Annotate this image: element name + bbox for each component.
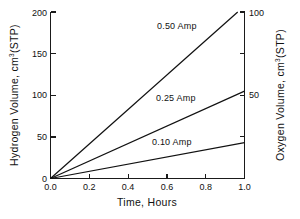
bottom-axis-tick-labels: 0.0 0.2 0.4 0.6 0.8 1.0 [44, 182, 251, 192]
hydrogen-oxygen-volume-line-chart: 0 50 100 150 200 50 100 0.0 [0, 0, 300, 219]
bottom-axis-ticks [51, 174, 245, 179]
left-tick-label-200: 200 [32, 8, 47, 18]
x-tick-label-1.0: 1.0 [238, 182, 251, 192]
left-tick-label-100: 100 [32, 90, 47, 100]
left-tick-label-50: 50 [37, 132, 47, 142]
chart-figure: 0 50 100 150 200 50 100 0.0 [0, 0, 300, 219]
x-tick-label-0.0: 0.0 [44, 182, 57, 192]
left-tick-label-150: 150 [32, 49, 47, 59]
left-axis-title-tail: (STP) [8, 24, 20, 53]
x-axis-title: Time, Hours [117, 196, 177, 208]
series-line-0.25-amp [51, 91, 245, 178]
series-label-0.25-amp: 0.25 Amp [156, 93, 196, 103]
right-tick-label-50: 50 [249, 90, 259, 100]
right-axis-title-main: Oxygen Volume, cm [274, 62, 286, 161]
series-label-0.10-amp: 0.10 Amp [152, 137, 192, 147]
series-line-0.10-amp [51, 143, 245, 179]
left-axis-ticks [51, 12, 56, 179]
x-tick-label-0.2: 0.2 [83, 182, 96, 192]
right-axis-ticks [240, 12, 245, 179]
series-annotations: 0.50 Amp 0.25 Amp 0.10 Amp [152, 21, 197, 147]
left-axis-title-main: Hydrogen Volume, cm [8, 57, 20, 166]
left-axis-tick-labels: 0 50 100 150 200 [32, 8, 47, 184]
right-axis-tick-labels: 50 100 [249, 8, 264, 101]
x-tick-label-0.6: 0.6 [161, 182, 174, 192]
series-line-0.50-amp [51, 12, 238, 179]
x-tick-label-0.4: 0.4 [122, 182, 135, 192]
right-axis-title-tail: (STP) [274, 29, 286, 58]
series-label-0.50-amp: 0.50 Amp [157, 21, 197, 31]
x-tick-label-0.8: 0.8 [199, 182, 212, 192]
data-series [51, 12, 245, 179]
right-axis-title: Oxygen Volume, cm3(STP) [274, 29, 286, 161]
right-tick-label-100: 100 [249, 8, 264, 18]
left-axis-title: Hydrogen Volume, cm3(STP) [8, 24, 20, 166]
